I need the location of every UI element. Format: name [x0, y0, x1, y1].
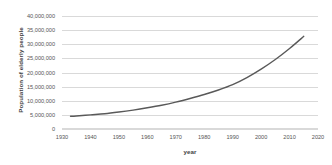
x-tick-label: 2010 — [275, 133, 305, 141]
y-tick-label: 15,000,000 — [0, 84, 55, 90]
y-tick-label: 5,000,000 — [0, 112, 55, 118]
y-axis-tick-labels: 05,000,00010,000,00015,000,00020,000,000… — [0, 16, 58, 129]
x-tick-label: 1970 — [161, 133, 191, 141]
y-tick-label: 30,000,000 — [0, 41, 55, 47]
x-tick-label: 1990 — [218, 133, 248, 141]
data-series-line — [62, 16, 318, 129]
y-tick-label: 35,000,000 — [0, 27, 55, 33]
gridline-y — [62, 129, 318, 130]
series-path-elderly-population — [71, 36, 304, 116]
x-axis-tick-labels: 1930194019501960197019801990200020102020 — [62, 133, 318, 143]
x-tick-label: 1960 — [132, 133, 162, 141]
x-tick-label: 1980 — [189, 133, 219, 141]
x-tick-label: 1950 — [104, 133, 134, 141]
x-tick-label: 1940 — [75, 133, 105, 141]
y-tick-label: 25,000,000 — [0, 55, 55, 61]
plot-area — [62, 16, 318, 129]
y-tick-label: 40,000,000 — [0, 13, 55, 19]
x-tick-label: 2020 — [303, 133, 332, 141]
y-tick-label: 10,000,000 — [0, 98, 55, 104]
y-tick-label: 20,000,000 — [0, 70, 55, 76]
y-tick-label: 0 — [0, 126, 55, 132]
chart-container: Population of elderly people 05,000,0001… — [0, 0, 332, 165]
x-axis-title: year — [62, 148, 318, 155]
x-tick-label: 2000 — [246, 133, 276, 141]
x-tick-label: 1930 — [47, 133, 77, 141]
